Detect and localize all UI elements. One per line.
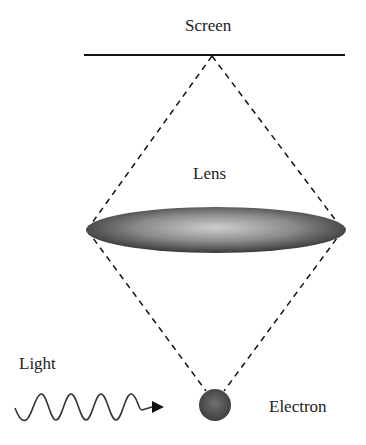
- microscope-diagram: Screen Lens Light Electron: [0, 0, 366, 445]
- light-label: Light: [19, 354, 56, 374]
- electron-circle: [199, 389, 231, 421]
- lens-ellipse: [86, 207, 346, 253]
- screen-label: Screen: [185, 16, 231, 36]
- light-wave-icon: [15, 394, 152, 421]
- lens-label: Lens: [193, 164, 226, 184]
- arrowhead-icon: [152, 401, 164, 413]
- electron-label: Electron: [269, 397, 327, 417]
- diagram-graphics: [0, 0, 366, 445]
